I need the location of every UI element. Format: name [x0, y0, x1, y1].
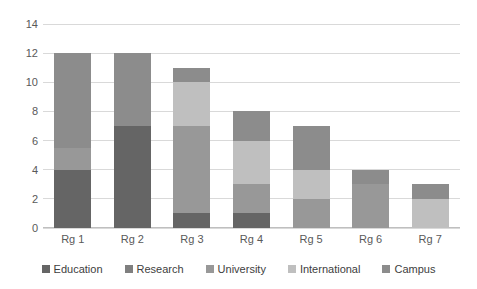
x-axis-tick-label: Rg 7 — [400, 232, 460, 246]
legend-item[interactable]: International — [288, 263, 361, 275]
legend-item[interactable]: Campus — [382, 263, 435, 275]
bar-segment[interactable] — [293, 170, 330, 199]
legend-item-label: University — [218, 263, 266, 275]
legend-item[interactable]: University — [206, 263, 266, 275]
legend-swatch-icon — [382, 265, 390, 273]
x-axis: Rg 1Rg 2Rg 3Rg 4Rg 5Rg 6Rg 7 — [43, 232, 460, 252]
stacked-bar-chart: 02468101214 Rg 1Rg 2Rg 3Rg 4Rg 5Rg 6Rg 7… — [0, 0, 477, 289]
legend-swatch-icon — [125, 265, 133, 273]
bar-segment[interactable] — [293, 199, 330, 228]
x-axis-tick-label: Rg 1 — [43, 232, 103, 246]
chart-legend: EducationResearchUniversityInternational… — [0, 259, 477, 279]
bar-segment[interactable] — [233, 111, 270, 140]
gridline — [43, 82, 460, 83]
bar-segment[interactable] — [114, 126, 151, 228]
legend-swatch-icon — [288, 265, 296, 273]
bar-segment[interactable] — [233, 213, 270, 228]
bar-segment[interactable] — [54, 170, 91, 228]
bar-segment[interactable] — [173, 68, 210, 83]
legend-item[interactable]: Education — [42, 263, 103, 275]
legend-item-label: Education — [54, 263, 103, 275]
legend-item[interactable]: Research — [125, 263, 184, 275]
bar-stack[interactable] — [412, 184, 449, 228]
y-axis-tick-label: 14 — [4, 19, 38, 29]
bar-segment[interactable] — [412, 184, 449, 199]
y-axis-tick-label: 0 — [4, 223, 38, 233]
gridline — [43, 24, 460, 25]
bar-stack[interactable] — [352, 170, 389, 228]
bar-stack[interactable] — [114, 53, 151, 228]
y-axis-tick-label: 12 — [4, 48, 38, 58]
bar-stack[interactable] — [173, 68, 210, 228]
legend-item-label: Campus — [394, 263, 435, 275]
y-axis-tick-label: 8 — [4, 106, 38, 116]
bar-segment[interactable] — [233, 141, 270, 185]
legend-swatch-icon — [206, 265, 214, 273]
bar-stack[interactable] — [54, 53, 91, 228]
bar-segment[interactable] — [173, 126, 210, 213]
bar-stack[interactable] — [233, 111, 270, 228]
bar-segment[interactable] — [233, 184, 270, 213]
plot-area — [43, 24, 460, 228]
x-axis-tick-label: Rg 5 — [281, 232, 341, 246]
bar-segment[interactable] — [173, 213, 210, 228]
y-axis-tick-label: 6 — [4, 136, 38, 146]
bar-segment[interactable] — [173, 82, 210, 126]
bar-segment[interactable] — [412, 199, 449, 228]
bar-segment[interactable] — [293, 126, 330, 170]
legend-swatch-icon — [42, 265, 50, 273]
gridline — [43, 53, 460, 54]
legend-item-label: International — [300, 263, 361, 275]
bar-segment[interactable] — [54, 53, 91, 148]
bar-segment[interactable] — [54, 148, 91, 170]
bar-segment[interactable] — [352, 184, 389, 228]
bar-segment[interactable] — [352, 170, 389, 185]
y-axis-tick-label: 4 — [4, 165, 38, 175]
x-axis-tick-label: Rg 4 — [222, 232, 282, 246]
x-axis-tick-label: Rg 2 — [103, 232, 163, 246]
y-axis-tick-label: 10 — [4, 77, 38, 87]
y-axis-tick-label: 2 — [4, 194, 38, 204]
bar-stack[interactable] — [293, 126, 330, 228]
x-axis-tick-label: Rg 3 — [162, 232, 222, 246]
legend-item-label: Research — [137, 263, 184, 275]
bar-segment[interactable] — [114, 53, 151, 126]
x-axis-tick-label: Rg 6 — [341, 232, 401, 246]
y-axis: 02468101214 — [0, 24, 38, 228]
